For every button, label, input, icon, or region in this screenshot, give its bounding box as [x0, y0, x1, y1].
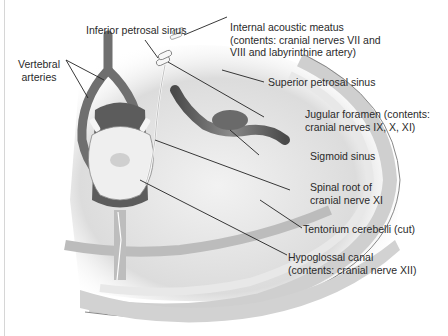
label-superior-petrosal-sinus: Superior petrosal sinus	[268, 76, 375, 89]
label-internal-acoustic-meatus: Internal acoustic meatus (contents: cran…	[230, 21, 381, 59]
label-tentorium-cerebelli: Tentorium cerebelli (cut)	[303, 223, 415, 236]
sigmoid-sinus-bulge	[212, 110, 248, 130]
anatomical-illustration	[0, 0, 448, 336]
label-sigmoid-sinus: Sigmoid sinus	[310, 150, 375, 163]
label-spinal-root-xi: Spinal root of cranial nerve XI	[310, 181, 383, 206]
label-jugular-foramen: Jugular foramen (contents: cranial nerve…	[305, 108, 430, 133]
label-inferior-petrosal-sinus: Inferior petrosal sinus	[86, 24, 186, 37]
label-hypoglossal-canal: Hypoglossal canal (contents: cranial ner…	[288, 251, 416, 276]
label-vertebral-arteries: Vertebral arteries	[18, 58, 60, 83]
